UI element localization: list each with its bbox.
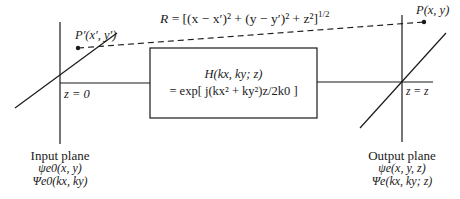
input-plane-spectrum: Ψe0(kx, ky) (10, 175, 110, 188)
distance-formula-exponent: 1/2 (318, 9, 330, 19)
source-point-label: P′(x′, y′) (75, 29, 117, 42)
output-plane-caption: Output plane ψe(x, y, z) Ψe(kx, ky; z) (350, 149, 454, 188)
observation-point-label: P(x, y) (416, 4, 449, 17)
transfer-function-line2: = exp[ j(kx² + ky²)z/2k0 ] (169, 83, 297, 100)
distance-formula-rhs: = [(x − x′)² + (y − y′)² + z²] (168, 11, 318, 26)
input-plane-caption: Input plane ψe0(x, y) Ψe0(kx, ky) (10, 149, 110, 188)
observation-point-dot (422, 20, 426, 24)
source-point-dot (76, 46, 80, 50)
output-plane-diagonal-axis (360, 33, 446, 128)
distance-dashed-line (78, 22, 424, 48)
output-plane-spectrum: Ψe(kx, ky; z) (350, 175, 454, 188)
output-plane-z-label: z = z (406, 86, 428, 98)
transfer-function-text: H(kx, ky; z) = exp[ j(kx² + ky²)z/2k0 ] (150, 48, 317, 118)
distance-formula: R = [(x − x′)² + (y − y′)² + z²]1/2 (160, 10, 330, 25)
transfer-function-line1: H(kx, ky; z) (205, 66, 263, 83)
distance-formula-lhs: R (160, 11, 168, 26)
input-plane-z-label: z = 0 (64, 88, 90, 101)
